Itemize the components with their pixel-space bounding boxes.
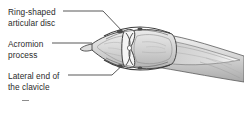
leader-line-disc: [63, 11, 124, 33]
label-clavicle-line-1: Lateral end of: [8, 71, 59, 82]
label-clavicle-line-2: the clavicle: [8, 82, 59, 93]
label-disc-line-1: Ring-shaped: [8, 7, 56, 18]
label-acromion-line-2: process: [8, 50, 43, 61]
anatomical-diagram-figure: Ring-shaped articular disc Acromion proc…: [0, 0, 244, 116]
lateral-end-of-clavicle-bone: [128, 30, 176, 69]
label-ring-shaped-articular-disc: Ring-shaped articular disc: [8, 7, 56, 28]
acromion-tip: [80, 44, 92, 51]
label-acromion-line-1: Acromion: [8, 39, 43, 50]
label-disc-line-2: articular disc: [8, 18, 56, 29]
label-acromion-process: Acromion process: [8, 39, 43, 60]
label-lateral-end-of-the-clavicle: Lateral end of the clavicle: [8, 71, 59, 92]
footer-dash-mark: [22, 100, 29, 101]
